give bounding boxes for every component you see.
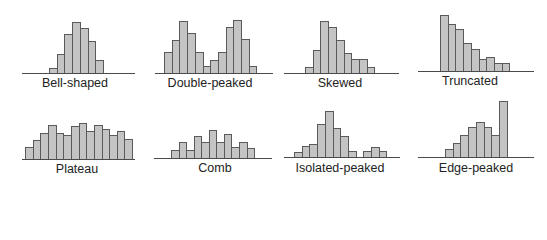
panel-label: Truncated bbox=[442, 74, 498, 88]
panel-label: Comb bbox=[198, 161, 231, 175]
x-axis-line bbox=[418, 157, 534, 158]
histogram-bar bbox=[247, 148, 255, 158]
x-axis-line bbox=[155, 73, 273, 74]
histogram-bar bbox=[95, 60, 104, 73]
panel-label: Bell-shaped bbox=[42, 76, 108, 90]
x-axis-line bbox=[22, 159, 135, 160]
histogram-bar bbox=[502, 63, 510, 71]
x-axis-line bbox=[418, 71, 534, 72]
histogram-bar bbox=[249, 66, 257, 73]
panel-label: Plateau bbox=[56, 162, 98, 176]
panel-label: Double-peaked bbox=[168, 76, 253, 90]
x-axis-line bbox=[154, 158, 272, 159]
panel-label: Skewed bbox=[318, 76, 362, 90]
x-axis-line bbox=[284, 73, 399, 74]
x-axis-line bbox=[284, 157, 400, 158]
panel-label: Edge-peaked bbox=[439, 161, 513, 175]
histogram-bar bbox=[124, 139, 133, 159]
histogram-bar bbox=[499, 101, 508, 157]
panel-label: Isolated-peaked bbox=[296, 161, 385, 175]
x-axis-line bbox=[22, 73, 135, 74]
